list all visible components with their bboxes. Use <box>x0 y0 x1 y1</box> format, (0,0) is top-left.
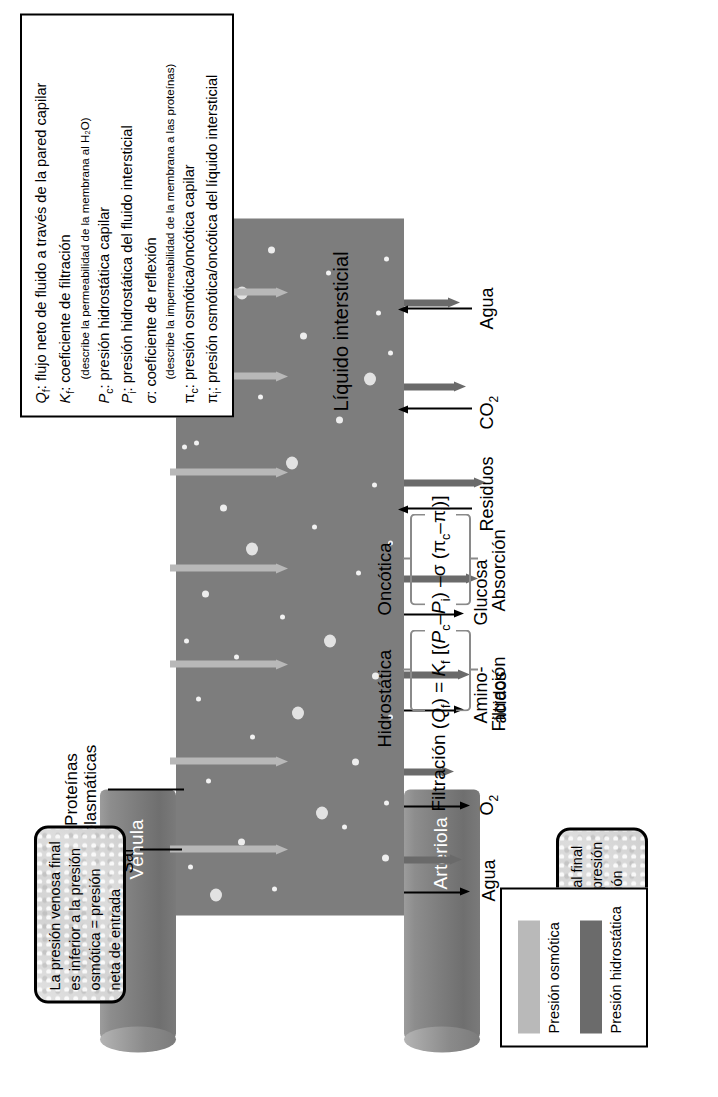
definition-row: πi: presión osmótica/oncótica del líquid… <box>202 27 226 403</box>
salt-leader-line <box>140 848 182 850</box>
pressure-key-box: Presión osmótica Presión hidrostática <box>500 887 648 1047</box>
definition-row: Qf: flujo neto de fluido a través de la … <box>31 27 55 403</box>
hydrostatic-term-label: Hidrostática <box>374 649 396 747</box>
absorption-term-label: Absorción <box>488 529 510 611</box>
key-swatch-osmotic <box>518 920 540 1033</box>
solute-label-residuos: Residuos <box>478 456 497 531</box>
solute-label-agua-out: Agua <box>480 859 499 901</box>
key-swatch-hydrostatic <box>580 920 602 1033</box>
figure-canvas: Vénula Arteriola <box>0 0 718 1097</box>
solute-arrow-agua-in <box>398 304 472 313</box>
oncotic-term-label: Oncótica <box>374 542 396 615</box>
key-label-osmotic: Presión osmótica <box>546 922 562 1033</box>
absorption-brace <box>456 513 471 605</box>
key-label-hydrostatic: Presión hidrostática <box>608 906 624 1033</box>
solute-arrow-co2 <box>398 404 472 413</box>
solute-arrow-agua-out <box>404 887 470 896</box>
definition-row: Pc: presión hidrostática capilar <box>94 27 118 403</box>
definition-row: πc: presión osmótica/oncótica capilar <box>179 27 203 403</box>
starling-equation: Filtración (Qf) = Kf [(Pc–Pi) –σ (πc–πi)… <box>428 495 453 811</box>
solute-label-o2: O2 <box>478 794 500 815</box>
solute-label-agua-in: Agua <box>478 287 497 329</box>
definition-note: (describe la permeabilidad de la membran… <box>78 27 94 379</box>
hydrostatic-brace <box>410 629 425 711</box>
definition-row: Kf: coeficiente de filtración <box>55 27 79 403</box>
definition-row: Pi: presión hidrostática del fluido inte… <box>117 27 141 403</box>
symbol-definitions-box: Qf: flujo neto de fluido a través de la … <box>20 13 234 417</box>
filtration-brace <box>456 629 471 711</box>
plasma-protein-leader-line <box>108 788 184 790</box>
definition-row: σ: coeficiente de reflexión <box>141 27 163 403</box>
callout-venous-pressure: La presión venosa final es inferior a la… <box>34 825 126 1003</box>
filtration-term-label: Filtración <box>488 656 510 731</box>
interstitial-fluid-label: Líquido intersticial <box>330 251 353 411</box>
solute-label-co2: CO2 <box>478 395 500 429</box>
definition-note: (describe la impermeabilidad de la membr… <box>163 27 179 379</box>
oncotic-brace <box>410 513 425 605</box>
